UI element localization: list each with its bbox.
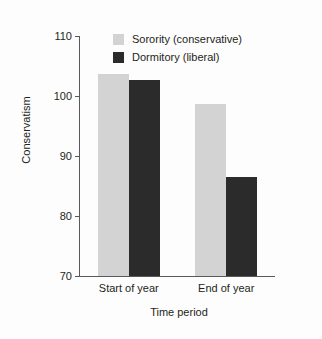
y-axis-tick-label: 70	[60, 271, 72, 282]
bar-end-of-year-dormitory	[226, 177, 257, 276]
y-axis-tick-label: 110	[54, 31, 72, 42]
y-axis-title: Conservatism	[21, 96, 32, 163]
bar-chart-figure: Sorority (conservative) Dormitory (liber…	[0, 0, 322, 339]
y-axis-tick	[75, 276, 79, 277]
x-axis-line	[79, 276, 275, 277]
bar-start-of-year-sorority	[98, 74, 129, 276]
x-axis-title: Time period	[0, 307, 322, 318]
x-axis-label: Start of year	[99, 283, 159, 294]
y-axis-tick	[75, 36, 79, 37]
x-axis-label: End of year	[198, 283, 254, 294]
bar-start-of-year-dormitory	[129, 80, 160, 276]
bar-end-of-year-sorority	[195, 104, 226, 276]
y-axis-tick	[75, 96, 79, 97]
y-axis-tick-label: 80	[60, 211, 72, 222]
y-axis-tick	[75, 216, 79, 217]
y-axis-tick-label: 100	[54, 91, 72, 102]
y-axis-line	[79, 36, 80, 277]
y-axis-tick-label: 90	[60, 151, 72, 162]
y-axis-tick	[75, 156, 79, 157]
plot-area: 708090100110 Start of yearEnd of year	[79, 36, 274, 276]
